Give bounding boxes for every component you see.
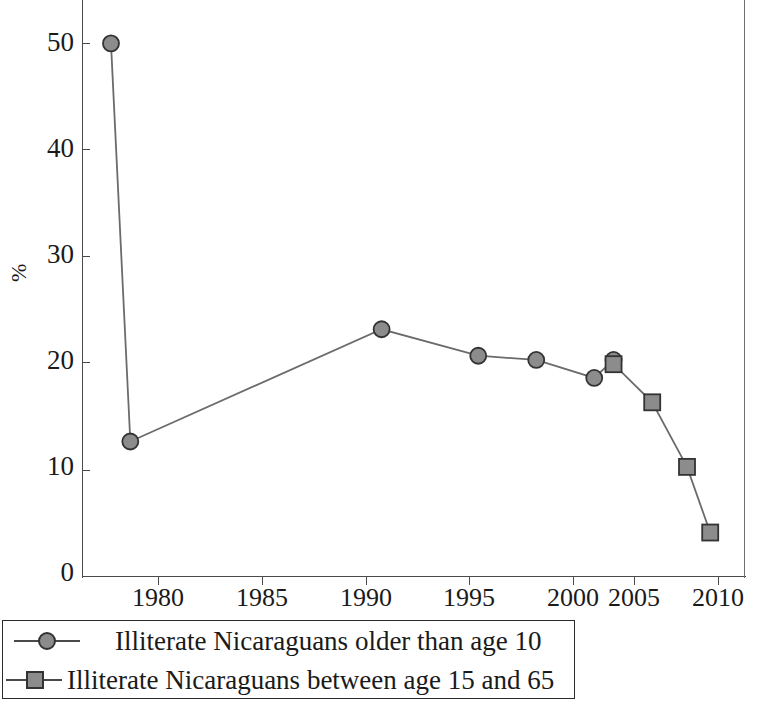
plot-right-border (744, 0, 745, 578)
y-axis-line (82, 0, 83, 578)
data-point (644, 394, 660, 410)
legend-marker-circle-icon (3, 628, 91, 654)
data-point (374, 321, 390, 337)
data-point (122, 433, 138, 449)
x-tick-label-1995: 1995 (424, 583, 514, 613)
y-tick-label-20: 20 (10, 347, 74, 374)
data-point (606, 352, 622, 368)
data-point (586, 370, 602, 386)
series-line (614, 364, 711, 532)
chart-root: 50 40 30 20 10 0 % 1980 1985 1990 1995 2… (0, 0, 763, 713)
x-tick-label-1985: 1985 (217, 583, 307, 613)
y-tick-label-10: 10 (10, 453, 74, 480)
y-axis-title: % (6, 264, 32, 282)
y-tick-mark-40 (82, 149, 90, 150)
legend-item-older-than-10: Illiterate Nicaraguans older than age 10 (3, 621, 574, 660)
data-point (470, 348, 486, 364)
data-point (679, 459, 695, 475)
data-point (702, 525, 718, 541)
legend-label-older-than-10: Illiterate Nicaraguans older than age 10 (91, 626, 542, 656)
x-tick-label-1990: 1990 (321, 583, 411, 613)
data-point (606, 356, 622, 372)
data-point (528, 352, 544, 368)
y-tick-mark-20 (82, 362, 90, 363)
legend-marker-square-icon (3, 667, 67, 693)
x-tick-label-1980: 1980 (113, 583, 203, 613)
y-tick-mark-30 (82, 256, 90, 257)
y-tick-label-50: 50 (10, 29, 74, 56)
legend-label-between-15-and-65: Illiterate Nicaraguans between age 15 an… (67, 665, 554, 695)
legend-item-between-15-and-65: Illiterate Nicaraguans between age 15 an… (3, 660, 574, 699)
series-squares (606, 356, 719, 540)
x-tick-label-2005: 2005 (589, 583, 679, 613)
y-tick-mark-10 (82, 470, 90, 471)
x-axis-line (82, 576, 746, 577)
chart-legend: Illiterate Nicaraguans older than age 10… (2, 620, 575, 699)
y-tick-mark-50 (82, 43, 90, 44)
series-circles (103, 35, 622, 449)
series-line (111, 43, 614, 441)
data-point (103, 35, 119, 51)
x-tick-label-2010: 2010 (673, 583, 763, 613)
y-tick-label-0: 0 (10, 559, 74, 586)
y-axis-tick-labels: 50 40 30 20 10 0 (0, 0, 74, 577)
y-tick-label-40: 40 (10, 135, 74, 162)
